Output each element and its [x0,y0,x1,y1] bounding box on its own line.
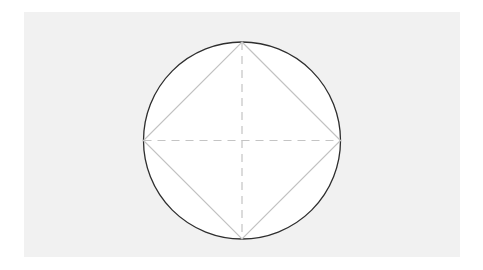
circle-inscribed-square-figure [0,0,483,270]
diagram-canvas [0,0,483,270]
